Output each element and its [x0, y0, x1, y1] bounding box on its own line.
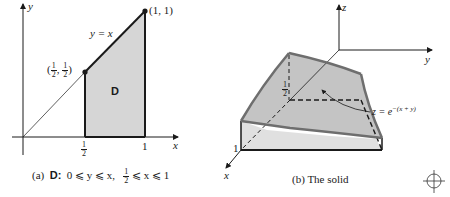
surface-equation-label: z = e−(x + y)	[372, 106, 416, 117]
fraction-half: 12	[81, 141, 87, 158]
fraction-den: 2	[282, 90, 288, 98]
y-axis-label: y	[28, 1, 33, 12]
point-half-half-label: (12, 12)	[47, 62, 72, 79]
caption-a-region: D:	[50, 169, 62, 181]
comma: ,	[57, 63, 60, 75]
x-axis-label: x	[173, 140, 178, 151]
tick-half-label: 12	[81, 141, 87, 158]
surface-equation-exponent: −(x + y)	[392, 105, 416, 113]
fraction-den: 2	[81, 150, 87, 158]
x-axis-3d-label: x	[224, 170, 229, 181]
tick-one-label: 1	[142, 141, 148, 152]
paren-close: )	[68, 63, 72, 75]
point-one-one	[142, 8, 147, 13]
z-axis-label: z	[342, 2, 346, 13]
fraction-half: 12	[282, 81, 288, 98]
height-half-label: 12	[282, 81, 288, 98]
caption-a-ineq1: 0 ⩽ y ⩽ x,	[67, 169, 115, 181]
caption-a-prefix: (a)	[32, 169, 44, 181]
line-label: y = x	[90, 28, 113, 39]
region-d-label: D	[111, 86, 119, 97]
height-one-label: 1	[233, 143, 239, 154]
line-y-eq-x-thin	[23, 72, 85, 137]
point-half-half	[82, 69, 87, 74]
caption-a-ineq2: ⩽ x ⩽ 1	[132, 169, 169, 181]
fraction-half: 12	[123, 168, 129, 185]
caption-b: (b) The solid	[292, 173, 349, 185]
y-axis-3d-label: y	[425, 54, 430, 65]
point-one-one-label: (1, 1)	[149, 5, 173, 16]
panel-b-graph	[226, 5, 432, 168]
registration-mark-icon	[423, 170, 445, 193]
surface-equation-base: z = e	[372, 106, 392, 117]
fraction-den: 2	[123, 177, 129, 185]
caption-a: (a) D: 0 ⩽ y ⩽ x, 12 ⩽ x ⩽ 1	[32, 168, 169, 185]
